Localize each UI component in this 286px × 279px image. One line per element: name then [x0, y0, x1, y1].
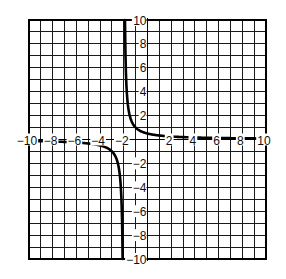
y-tick-label: 2 — [140, 109, 147, 123]
x-tick-label: 8 — [237, 134, 244, 148]
curve-left-branch — [29, 141, 123, 259]
x-tick-label: −10 — [17, 134, 38, 148]
x-tick-label: 4 — [190, 134, 197, 148]
x-tick-labels: −10−8−6−4−2246810 — [16, 134, 272, 148]
y-tick-label: −2 — [133, 157, 147, 171]
y-tick-label: −4 — [133, 181, 147, 195]
x-tick-label: −8 — [44, 134, 58, 148]
coordinate-plane: −10−8−6−4−2246810 108642−2−4−6−8−10 — [0, 0, 286, 279]
x-tick-label: −2 — [115, 134, 129, 148]
y-tick-label: −8 — [133, 229, 147, 243]
y-tick-label: 4 — [140, 85, 147, 99]
y-tick-label: 6 — [140, 61, 147, 75]
x-tick-label: −4 — [91, 134, 105, 148]
y-tick-label: −6 — [133, 205, 147, 219]
y-tick-label: 10 — [133, 14, 147, 28]
x-tick-label: 2 — [166, 134, 173, 148]
x-tick-label: 10 — [257, 134, 271, 148]
y-tick-label: 8 — [140, 37, 147, 51]
y-tick-label: −10 — [126, 253, 147, 267]
x-tick-label: −6 — [68, 134, 82, 148]
x-tick-label: 6 — [213, 134, 220, 148]
